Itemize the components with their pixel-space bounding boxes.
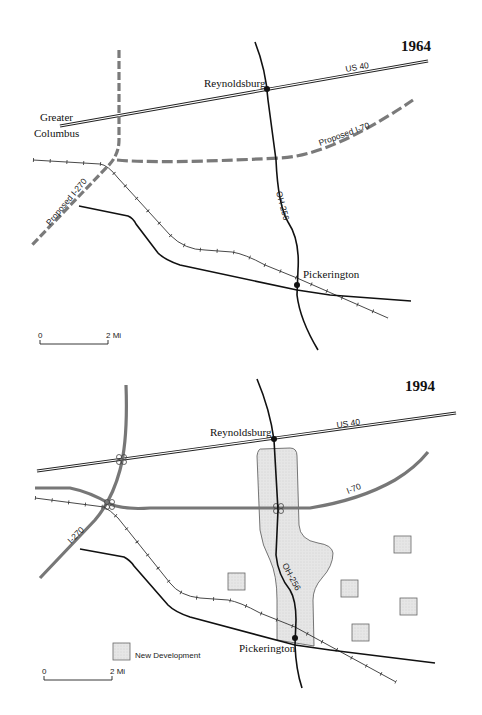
scale-start: 0 — [42, 667, 47, 676]
development-square — [400, 598, 417, 615]
southern-road — [79, 206, 411, 301]
development-square — [352, 624, 369, 641]
reynoldsburg-label: Reynoldsburg — [204, 77, 266, 89]
map-figure: 1964 US 40 Proposed I-270 Proposed I-70 … — [0, 0, 482, 715]
pickerington-dot — [292, 635, 298, 641]
pickerington-dot — [294, 282, 300, 288]
pickerington-label: Pickerington — [303, 268, 360, 280]
map-1964: 1964 US 40 Proposed I-270 Proposed I-70 … — [32, 38, 432, 350]
map-year-1964: 1964 — [401, 38, 432, 54]
scale-end: 2 Mi — [106, 331, 121, 340]
reynoldsburg-dot — [271, 436, 277, 442]
development-square — [341, 580, 358, 597]
scale-end: 2 Mi — [110, 667, 125, 676]
map-1994: 1994 US 40 I-270 I-70 — [35, 378, 456, 688]
legend: New Development — [113, 643, 201, 660]
scale-bar: 0 2 Mi — [42, 667, 125, 680]
greater-columbus-label-2: Columbus — [34, 127, 79, 139]
scale-start: 0 — [38, 331, 43, 340]
map-year-1994: 1994 — [405, 378, 436, 394]
reynoldsburg-label: Reynoldsburg — [210, 426, 272, 438]
development-square — [394, 536, 411, 553]
us40-road — [60, 61, 428, 126]
i70-road — [35, 452, 428, 509]
oh256-label: OH-256 — [274, 190, 291, 222]
proposed-i70-label: Proposed I-70 — [317, 120, 371, 148]
us40-road — [37, 413, 456, 471]
proposed-i270-label: Proposed I-270 — [44, 176, 89, 227]
legend-swatch — [113, 643, 130, 660]
pickerington-label: Pickerington — [239, 642, 296, 654]
i70-label: I-70 — [345, 481, 363, 496]
scale-bar: 0 2 Mi — [38, 331, 121, 344]
proposed-i270-road — [32, 50, 119, 245]
greater-columbus-label-1: Greater — [40, 111, 73, 123]
legend-new-development: New Development — [135, 651, 201, 660]
development-square — [228, 573, 245, 590]
